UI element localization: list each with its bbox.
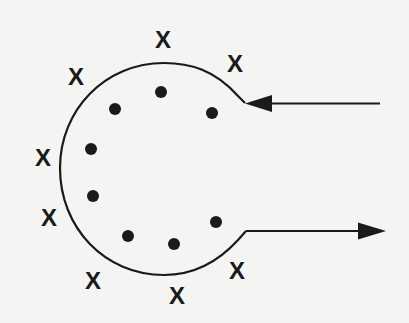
dot-icon	[168, 238, 180, 250]
dot-icon	[206, 107, 218, 119]
outgoing-arrow	[246, 223, 386, 240]
arrowhead-left-icon	[245, 95, 272, 112]
x-mark-icon: X	[169, 282, 185, 309]
x-mark-icon: X	[229, 257, 245, 284]
dot-icon	[87, 190, 99, 202]
x-mark-icon: X	[68, 63, 84, 90]
x-mark-icon: X	[155, 26, 171, 53]
arrowhead-right-icon	[358, 223, 386, 240]
dot-icon	[155, 86, 167, 98]
incoming-arrow	[245, 95, 380, 112]
x-mark-icon: X	[85, 267, 101, 294]
x-mark-icon: X	[41, 204, 57, 231]
dot-icon	[109, 103, 121, 115]
dot-icon	[210, 216, 222, 228]
particle-path-diagram: XXXXXXXX	[0, 0, 409, 323]
field-x-marks: XXXXXXXX	[35, 26, 245, 309]
particle-trajectory	[60, 63, 246, 275]
x-mark-icon: X	[227, 50, 243, 77]
field-dots	[85, 86, 222, 250]
x-mark-icon: X	[35, 144, 51, 171]
dot-icon	[85, 143, 97, 155]
dot-icon	[122, 230, 134, 242]
